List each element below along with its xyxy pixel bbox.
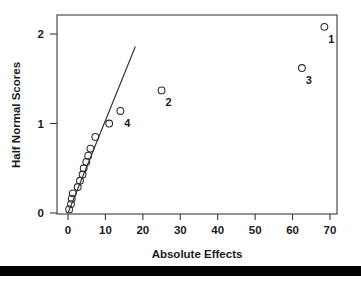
x-tick-label: 10 (99, 224, 112, 236)
x-tick-label: 60 (286, 224, 299, 236)
y-tick-label: 1 (38, 118, 45, 130)
x-tick-label: 70 (324, 224, 337, 236)
x-tick-label: 30 (174, 224, 187, 236)
figure-background (0, 0, 361, 281)
data-point-label: 4 (124, 117, 131, 129)
footer-black-bar (0, 266, 361, 276)
x-tick-label: 0 (65, 224, 71, 236)
data-point-label: 1 (328, 33, 334, 45)
y-tick-label: 2 (38, 28, 44, 40)
plot-canvas: 010203040506070 012 4231 Absolute Effect… (0, 0, 361, 281)
y-tick-label: 0 (38, 207, 44, 219)
data-point-label: 2 (166, 96, 172, 108)
data-point-label: 3 (306, 74, 312, 86)
x-axis-title: Absolute Effects (152, 248, 243, 260)
x-tick-label: 50 (249, 224, 262, 236)
x-tick-label: 20 (136, 224, 149, 236)
x-tick-label: 40 (211, 224, 224, 236)
half-normal-plot-figure: 010203040506070 012 4231 Absolute Effect… (0, 0, 361, 281)
y-axis-title: Half Normal Scores (10, 62, 22, 168)
